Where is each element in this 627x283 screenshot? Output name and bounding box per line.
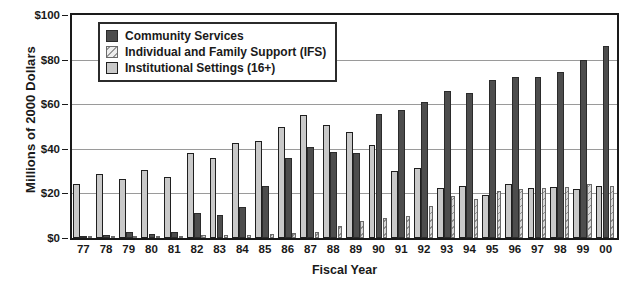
- x-axis-tick-label: 94: [463, 243, 476, 255]
- legend-item-label: Individual and Family Support (IFS): [125, 45, 326, 59]
- bar-ifs: [270, 234, 274, 238]
- bar-ifs: [565, 187, 569, 238]
- bar-ifs: [338, 226, 342, 238]
- bar-inst: [391, 171, 398, 238]
- x-axis-tick-label: 92: [418, 243, 431, 255]
- bar-ifs: [406, 216, 410, 238]
- bar-cs: [217, 215, 224, 238]
- bar-ifs: [292, 233, 296, 238]
- bar-inst: [596, 186, 603, 238]
- bar-ifs: [224, 235, 228, 238]
- legend-item: Community Services: [106, 28, 326, 44]
- bar-inst: [505, 184, 512, 238]
- y-axis-tick-label: $0: [47, 232, 60, 244]
- bar-group: [72, 15, 95, 238]
- bar-inst: [300, 115, 307, 238]
- bar-cs: [307, 147, 314, 238]
- bar-cs: [444, 91, 451, 238]
- bar-cs: [285, 158, 292, 238]
- bar-inst: [437, 188, 444, 238]
- y-axis-tick-label: $60: [41, 98, 60, 110]
- y-axis-tick-label: $80: [41, 54, 60, 66]
- x-axis-tick-label: 89: [349, 243, 362, 255]
- bar-inst: [187, 153, 194, 238]
- x-axis-tick-label: 88: [327, 243, 340, 255]
- bar-inst: [550, 187, 557, 238]
- bar-inst: [573, 189, 580, 238]
- bar-cs: [376, 114, 383, 238]
- x-axis-tick-label: 86: [281, 243, 294, 255]
- bar-cs: [512, 77, 519, 238]
- x-axis-tick-label: 91: [395, 243, 408, 255]
- legend-swatch-icon: [106, 46, 118, 58]
- x-axis-tick-label: 85: [259, 243, 272, 255]
- bar-ifs: [587, 184, 591, 238]
- bar-cs: [330, 152, 337, 238]
- y-axis-tick-label: $20: [41, 187, 60, 199]
- legend-item: Individual and Family Support (IFS): [106, 44, 326, 60]
- legend-item-label: Community Services: [125, 29, 244, 43]
- bar-group: [594, 15, 617, 238]
- bar-inst: [96, 174, 103, 238]
- bar-ifs: [451, 196, 455, 238]
- bar-cs: [398, 110, 405, 238]
- x-axis-tick-label: 97: [531, 243, 544, 255]
- bar-inst: [73, 184, 80, 238]
- bar-cs: [126, 232, 133, 238]
- bar-group: [413, 15, 436, 238]
- bar-inst: [141, 170, 148, 238]
- bar-group: [526, 15, 549, 238]
- bar-ifs: [542, 188, 546, 238]
- bar-inst: [414, 168, 421, 238]
- bar-chart: Millions of 2000 Dollars $0$20$40$60$80$…: [0, 0, 627, 283]
- x-axis-tick-label: 81: [168, 243, 181, 255]
- bar-group: [549, 15, 572, 238]
- bar-ifs: [383, 218, 387, 238]
- bar-inst: [164, 177, 171, 238]
- bar-ifs: [497, 191, 501, 238]
- bar-cs: [421, 102, 428, 238]
- bar-ifs: [247, 235, 251, 238]
- legend-item: Institutional Settings (16+): [106, 60, 326, 76]
- bar-cs: [557, 72, 564, 238]
- x-axis-tick-label: 77: [77, 243, 90, 255]
- x-axis-tick-label: 84: [236, 243, 249, 255]
- x-axis-tick-label: 93: [440, 243, 453, 255]
- x-axis-tick-label: 95: [486, 243, 499, 255]
- x-axis-tick-label: 78: [100, 243, 113, 255]
- legend-item-label: Institutional Settings (16+): [125, 61, 275, 75]
- bar-ifs: [156, 236, 160, 238]
- bar-cs: [149, 234, 156, 238]
- x-axis-tick-label: 87: [304, 243, 317, 255]
- legend-swatch-icon: [106, 30, 118, 42]
- y-axis-tick-mark: [62, 149, 68, 150]
- x-axis-tick-label: 98: [554, 243, 567, 255]
- bar-ifs: [429, 206, 433, 238]
- bar-ifs: [88, 236, 92, 238]
- bar-group: [458, 15, 481, 238]
- bar-ifs: [610, 186, 614, 238]
- bar-cs: [239, 207, 246, 238]
- bar-group: [345, 15, 368, 238]
- bar-inst: [459, 186, 466, 238]
- bar-ifs: [474, 199, 478, 238]
- bar-inst: [482, 195, 489, 238]
- x-axis-tick-label: 96: [508, 243, 521, 255]
- legend: Community ServicesIndividual and Family …: [98, 22, 337, 82]
- bar-inst: [323, 125, 330, 238]
- legend-swatch-icon: [106, 62, 118, 74]
- x-axis-tick-label: 90: [372, 243, 385, 255]
- bar-inst: [232, 143, 239, 238]
- bar-group: [481, 15, 504, 238]
- bar-cs: [535, 77, 542, 238]
- bar-ifs: [133, 236, 137, 238]
- x-axis-tick-label: 82: [190, 243, 203, 255]
- y-axis-tick-label: $40: [41, 143, 60, 155]
- bar-group: [572, 15, 595, 238]
- bar-cs: [489, 80, 496, 238]
- x-axis-tick-label: 99: [577, 243, 590, 255]
- bar-cs: [603, 46, 610, 238]
- bar-cs: [194, 213, 201, 238]
- bar-ifs: [519, 189, 523, 238]
- x-axis-title: Fiscal Year: [70, 263, 619, 277]
